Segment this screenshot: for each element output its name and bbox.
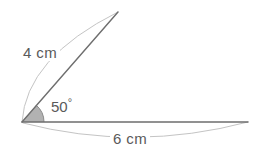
side-length-label-6cm: 6 cm [110, 130, 150, 147]
angle-sector-fill [22, 105, 44, 122]
degree-symbol-icon: ° [68, 96, 72, 108]
angle-value-text: 50 [51, 98, 68, 115]
side-length-label-4cm: 4 cm [20, 44, 60, 61]
geometry-diagram: 4 cm 6 cm 50° [0, 0, 262, 156]
angle-measure-label: 50° [49, 96, 74, 115]
